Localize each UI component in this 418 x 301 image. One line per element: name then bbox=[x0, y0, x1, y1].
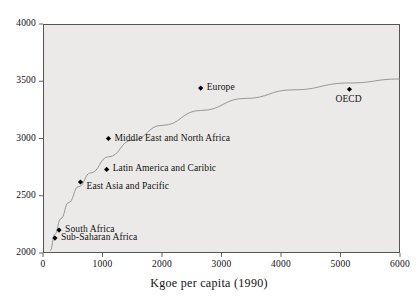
y-tick-label: 2500 bbox=[2, 190, 36, 200]
x-tick-label: 2000 bbox=[142, 259, 182, 269]
x-tick-label: 4000 bbox=[261, 259, 301, 269]
x-tick-label: 6000 bbox=[380, 259, 418, 269]
x-tick-label: 0 bbox=[23, 259, 63, 269]
data-point-label: South Africa bbox=[65, 224, 114, 234]
data-marker bbox=[104, 167, 109, 172]
y-tick-label: 2000 bbox=[2, 247, 36, 257]
y-tick-label: 3500 bbox=[2, 75, 36, 85]
data-point-label: Latin America and Caribic bbox=[113, 163, 217, 173]
data-point-label: Middle East and North Africa bbox=[114, 133, 230, 143]
x-tick-label: 5000 bbox=[321, 259, 361, 269]
data-point-label: East Asia and Pacific bbox=[86, 181, 169, 191]
x-tick-label: 1000 bbox=[83, 259, 123, 269]
chart-figure: 20002500300035004000 0100020003000400050… bbox=[0, 0, 418, 301]
data-point-label: OECD bbox=[335, 94, 361, 104]
data-marker bbox=[347, 87, 352, 92]
y-tick-label: 4000 bbox=[2, 18, 36, 28]
chart-svg bbox=[0, 0, 418, 301]
x-axis-title: Kgoe per capita (1990) bbox=[0, 276, 418, 291]
data-marker bbox=[198, 86, 203, 91]
data-point-label: Europe bbox=[207, 82, 235, 92]
data-marker bbox=[106, 136, 111, 141]
y-tick-label: 3000 bbox=[2, 133, 36, 143]
x-tick-label: 3000 bbox=[202, 259, 242, 269]
